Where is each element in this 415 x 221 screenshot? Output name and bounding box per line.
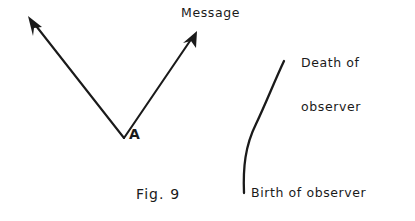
death-of-observer-line-1: Death of [301,56,361,71]
death-of-observer-label: Death of observer [301,26,361,144]
left-message-ray [28,16,124,138]
right-arrowhead-icon [183,31,197,48]
birth-of-observer-label: Birth of observer [251,186,366,201]
figure-9-diagram: Message A Death of observer Birth of obs… [0,0,415,221]
vertex-a-label: A [129,126,140,143]
observer-worldline [244,61,284,193]
left-arrowhead-icon [28,16,42,36]
right-message-ray [124,31,197,138]
message-label: Message [181,6,240,21]
figure-caption: Fig. 9 [136,186,180,203]
death-of-observer-line-2: observer [301,100,361,115]
